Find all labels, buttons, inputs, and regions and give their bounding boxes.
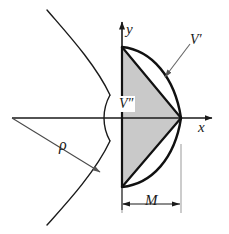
v-prime-leader [165,44,190,77]
region-label-v-double-prime: V″ [117,96,135,112]
y-axis-label: y [126,22,133,37]
figure-canvas: y x V′ V″ ρ M [0,0,229,234]
region-label-v-prime: V′ [190,33,202,47]
radius-label-rho: ρ [59,137,67,153]
x-axis-label: x [198,120,205,135]
large-arc-lower [47,141,110,225]
dimension-label-m: M [145,193,158,208]
large-arc-upper [47,10,110,95]
rho-leader [12,118,100,172]
